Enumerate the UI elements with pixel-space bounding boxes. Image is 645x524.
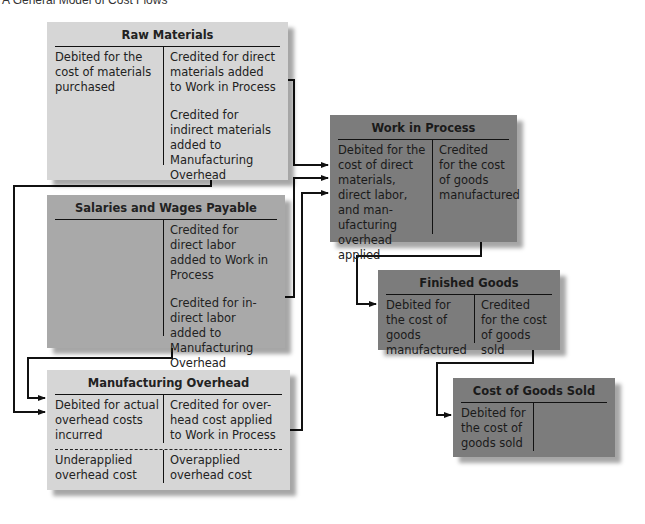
flow-swp-to-wip [285, 178, 328, 297]
debit-side [55, 220, 163, 336]
account-finished-goods: Finished Goods Debited for the cost of g… [378, 270, 560, 350]
account-salaries-wages-payable: Salaries and Wages Payable Credited for … [47, 195, 285, 348]
credit-side: Credited for direct labor added to Work … [163, 220, 277, 336]
debit-side: Debited for the cost of goods sold [461, 403, 533, 451]
credit-side [533, 403, 607, 451]
debit-side: Debited for the cost of direct materials… [338, 140, 432, 263]
account-title: Raw Materials [55, 26, 280, 47]
debit-side: Debited for actual overhead costs incurr… [55, 395, 163, 443]
flow-moh-to-wip [290, 193, 328, 430]
account-title: Finished Goods [386, 274, 552, 295]
account-manufacturing-overhead: Manufacturing Overhead Debited for actua… [47, 370, 290, 490]
account-title: Salaries and Wages Payable [55, 199, 277, 220]
diagram-title: A General Model of Cost Flows [2, 0, 167, 7]
account-work-in-process: Work in Process Debited for the cost of … [330, 115, 517, 242]
credit-side: Credited for the cost of goods sold [474, 295, 552, 343]
account-title: Cost of Goods Sold [461, 382, 607, 403]
flow-rm-to-wip [288, 80, 328, 165]
overapplied-balance: Overapplied overhead cost [163, 450, 282, 483]
debit-side: Debited for the cost of materials purcha… [55, 47, 163, 165]
credit-side: Credited for the cost of goods manufactu… [432, 140, 509, 234]
account-raw-materials: Raw Materials Debited for the cost of ma… [47, 22, 288, 180]
debit-side: Debited for the cost of goods manufactur… [386, 295, 474, 358]
account-title: Manufacturing Overhead [55, 374, 282, 395]
underapplied-balance: Underapplied overhead cost [55, 450, 163, 483]
credit-side: Credited for direct materials added to W… [163, 47, 280, 165]
account-cost-of-goods-sold: Cost of Goods Sold Debited for the cost … [453, 378, 615, 457]
credit-side: Credited for over-head cost applied to W… [163, 395, 282, 443]
account-title: Work in Process [338, 119, 509, 140]
